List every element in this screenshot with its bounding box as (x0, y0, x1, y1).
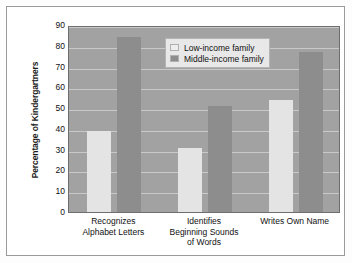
x-axis-category-label-line: Beginning Sounds (149, 227, 259, 238)
y-axis-tick: 40 (43, 124, 65, 134)
x-axis-category-label-line: of Words (149, 237, 259, 248)
legend-swatch-icon (170, 55, 179, 62)
y-axis-tick: 10 (43, 186, 65, 196)
y-axis-title: Percentage of Kindergartners (30, 30, 40, 210)
legend-swatch-icon (170, 44, 179, 51)
y-axis-tick: 90 (43, 20, 65, 30)
legend-label: Low-income family (184, 43, 254, 53)
x-axis-category-label-line: Writes Own Name (240, 216, 350, 227)
bar (87, 131, 111, 212)
bar (117, 37, 141, 212)
y-axis-tick: 50 (43, 103, 65, 113)
legend-label: Middle-income family (184, 54, 264, 64)
y-axis-tick: 20 (43, 165, 65, 175)
y-axis-tick: 30 (43, 145, 65, 155)
figure-frame: Percentage of Kindergartners 01020304050… (6, 6, 345, 256)
y-axis-tick: 70 (43, 62, 65, 72)
bar (269, 100, 293, 212)
bar (208, 106, 232, 212)
chart-legend: Low-income familyMiddle-income family (165, 38, 270, 68)
chart-figure: Percentage of Kindergartners 01020304050… (0, 0, 352, 263)
gridline (69, 27, 339, 28)
bar (178, 148, 202, 212)
bar (299, 52, 323, 212)
legend-item: Middle-income family (170, 53, 264, 64)
x-axis-category-labels: RecognizesAlphabet LettersIdentifiesBegi… (68, 216, 340, 263)
legend-item: Low-income family (170, 42, 264, 53)
x-axis-category-label: Writes Own Name (240, 216, 350, 227)
y-axis-tick-labels: 0102030405060708090 (43, 25, 65, 213)
y-axis-tick: 80 (43, 41, 65, 51)
y-axis-tick: 60 (43, 82, 65, 92)
